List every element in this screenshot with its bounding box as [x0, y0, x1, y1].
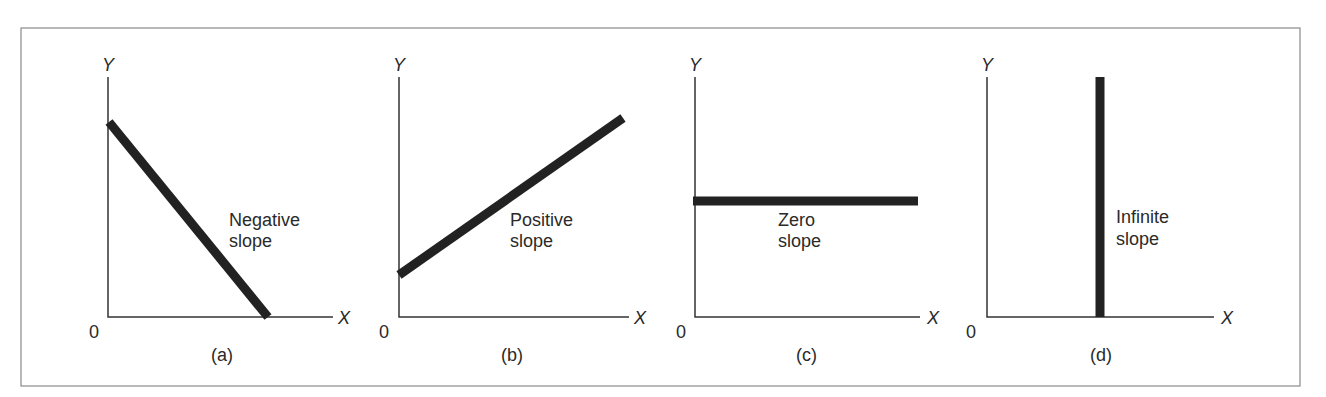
x-axis-label: X	[337, 308, 351, 328]
line-label-2: slope	[778, 231, 821, 251]
line-label-2: slope	[1116, 229, 1159, 249]
axes	[108, 77, 333, 317]
line-label-1: Zero	[778, 210, 815, 230]
positive-slope-line	[399, 118, 623, 275]
panel-a: Y X 0 Negative slope (a)	[89, 55, 351, 365]
panel-caption: (d)	[1090, 345, 1112, 365]
panel-caption: (a)	[211, 345, 233, 365]
y-axis-label: Y	[393, 55, 407, 75]
panel-caption: (c)	[796, 345, 817, 365]
line-label-2: slope	[229, 231, 272, 251]
line-label-1: Positive	[510, 210, 573, 230]
y-axis-label: Y	[981, 55, 995, 75]
panel-b: Y X 0 Positive slope (b)	[379, 55, 647, 365]
figure-frame	[21, 28, 1300, 386]
y-axis-label: Y	[102, 55, 116, 75]
x-axis-label: X	[926, 308, 940, 328]
origin-label: 0	[676, 322, 686, 342]
origin-label: 0	[966, 322, 976, 342]
line-label-1: Infinite	[1116, 207, 1169, 227]
line-label-2: slope	[510, 231, 553, 251]
x-axis-label: X	[1220, 308, 1234, 328]
origin-label: 0	[89, 322, 99, 342]
origin-label: 0	[379, 322, 389, 342]
slope-diagram: Y X 0 Negative slope (a) Y X 0 Positive …	[0, 0, 1326, 397]
x-axis-label: X	[633, 308, 647, 328]
panel-d: Y X 0 Infinite slope (d)	[966, 55, 1234, 365]
panel-caption: (b)	[501, 345, 523, 365]
line-label-1: Negative	[229, 210, 300, 230]
y-axis-label: Y	[689, 55, 703, 75]
panel-c: Y X 0 Zero slope (c)	[676, 55, 940, 365]
